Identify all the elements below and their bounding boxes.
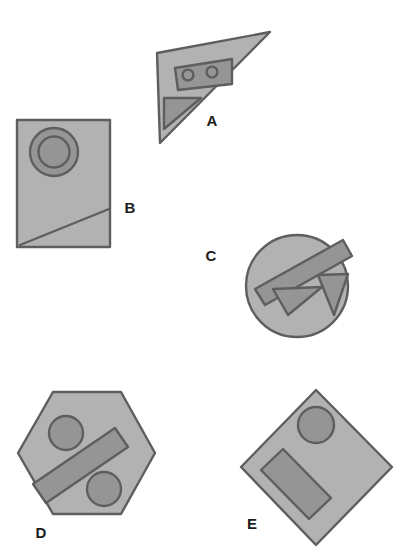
shape-label-e: E bbox=[247, 515, 257, 532]
shape-b-inner-ring bbox=[39, 137, 70, 168]
shape-d-circle-bottom bbox=[87, 472, 121, 506]
shape-label-d: D bbox=[36, 524, 47, 541]
shape-a-inner-circle-left bbox=[183, 70, 194, 81]
shape-label-a: A bbox=[207, 112, 218, 129]
geometric-shapes-figure: ABCDE bbox=[0, 0, 410, 560]
shape-d-circle-top bbox=[49, 416, 83, 450]
shape-label-c: C bbox=[206, 247, 217, 264]
shape-a-inner-circle-right bbox=[207, 67, 218, 78]
shape-label-b: B bbox=[125, 199, 136, 216]
shape-e-circle-top bbox=[298, 407, 334, 443]
